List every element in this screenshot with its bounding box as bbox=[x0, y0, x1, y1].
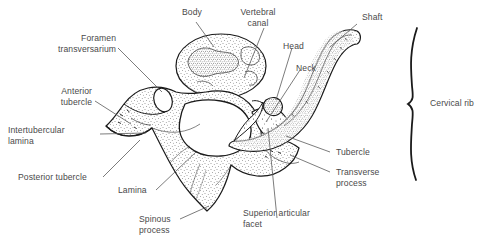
label-body: Body bbox=[172, 7, 212, 18]
label-shaft: Shaft bbox=[362, 12, 406, 23]
label-cervical-rib: Cervical rib bbox=[430, 98, 490, 109]
label-anterior-tubercle: Anterior tubercle bbox=[20, 86, 92, 108]
rib-head-shape bbox=[264, 98, 283, 116]
leader-posterior-tubercle bbox=[103, 140, 140, 177]
label-transverse-process: Transverse process bbox=[336, 167, 394, 189]
label-foramen-transversarium: Foramen transversarium bbox=[24, 33, 116, 55]
label-lamina: Lamina bbox=[118, 185, 164, 196]
cervical-rib-brace bbox=[408, 28, 417, 180]
leader-transverse-process bbox=[290, 155, 330, 172]
label-superior-articular-facet: Superior articular facet bbox=[243, 208, 335, 230]
label-neck: Neck bbox=[296, 63, 336, 74]
label-posterior-tubercle: Posterior tubercle bbox=[18, 172, 108, 183]
label-spinous-process: Spinous process bbox=[139, 214, 189, 236]
label-tubercle: Tubercle bbox=[336, 147, 390, 158]
label-vertebral-canal: Vertebral canal bbox=[230, 7, 286, 29]
vertebral-body bbox=[176, 34, 266, 98]
anatomy-figure: Body Vertebral canal Head Neck Shaft Cer… bbox=[0, 0, 490, 252]
label-head: Head bbox=[283, 41, 323, 52]
leader-head bbox=[276, 48, 292, 100]
label-intertubercular-lamina: Intertubercular lamina bbox=[8, 125, 100, 147]
leader-foramen-transversarium bbox=[118, 48, 162, 92]
